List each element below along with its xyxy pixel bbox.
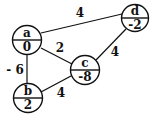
edge-weight-c-d: 4 xyxy=(111,45,119,59)
edge-weight-a-b: - 6 xyxy=(6,63,24,77)
node-d-value: -2 xyxy=(128,18,141,32)
edge-weight-a-d: 4 xyxy=(76,6,84,20)
node-b-name: b xyxy=(24,84,32,98)
node-b-value: 2 xyxy=(24,98,32,112)
node-a-name: a xyxy=(23,26,31,40)
node-a: a 0 xyxy=(13,26,42,55)
node-c-value: -8 xyxy=(78,70,91,84)
edge-weight-a-c: 2 xyxy=(56,41,64,55)
node-c-name: c xyxy=(81,56,88,70)
node-c: c -8 xyxy=(71,56,100,85)
graph-diagram: 4 2 - 6 4 4 a 0 b 2 c -8 d -2 xyxy=(0,0,159,126)
edge-weight-b-c: 4 xyxy=(57,86,65,100)
node-d: d -2 xyxy=(122,4,149,32)
node-d-name: d xyxy=(131,4,140,18)
node-a-value: 0 xyxy=(23,40,31,54)
node-b: b 2 xyxy=(14,84,43,113)
